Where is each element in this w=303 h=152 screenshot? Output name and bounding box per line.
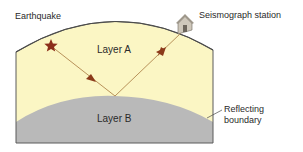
layer-b-label: Layer B [97, 113, 131, 124]
reflecting-boundary-label-line2: boundary [224, 115, 262, 126]
seismic-reflection-diagram [0, 0, 303, 152]
layer-a-label: Layer A [97, 44, 131, 55]
earthquake-label: Earthquake [15, 11, 61, 22]
seismograph-station-label: Seismograph station [199, 10, 281, 21]
seismograph-station-icon [176, 14, 194, 34]
reflecting-boundary-label-line1: Reflecting [224, 104, 264, 115]
